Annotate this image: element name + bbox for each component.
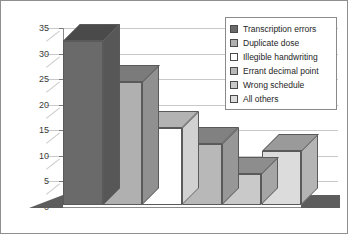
bar-side-face [103,24,120,205]
bar-side-face [142,65,159,205]
legend-swatch-icon [230,81,238,89]
legend-item-label: Transcription errors [243,25,316,34]
legend-item-label: Illegible handwriting [243,53,318,62]
y-axis-tick-label: 30 [19,50,49,59]
legend-item-label: Wrong schedule [243,81,304,90]
legend-item[interactable]: Errant decimal point [230,64,332,78]
y-axis-tick-label: 10 [19,152,49,161]
legend-item-label: All others [243,95,278,104]
legend-item[interactable]: Illegible handwriting [230,50,332,64]
chart-frame: 05101520253035 Transcription errorsDupli… [0,0,348,234]
bar-column[interactable] [63,41,103,205]
legend-item[interactable]: All others [230,92,332,106]
bar-front-face [63,41,103,205]
floor-slab-left [29,195,63,208]
y-axis-tick-label: 35 [19,24,49,33]
y-axis-tick-label: 25 [19,75,49,84]
x-axis-line [63,207,338,208]
legend-item[interactable]: Duplicate dose [230,36,332,50]
chart-legend: Transcription errorsDuplicate doseIllegi… [225,17,337,110]
y-axis-tick-label: 20 [19,101,49,110]
y-axis-tick-label: 15 [19,126,49,135]
legend-swatch-icon [230,25,238,33]
legend-item[interactable]: Wrong schedule [230,78,332,92]
legend-swatch-icon [230,53,238,61]
legend-swatch-icon [230,67,238,75]
legend-swatch-icon [230,39,238,47]
legend-item[interactable]: Transcription errors [230,22,332,36]
legend-swatch-icon [230,95,238,103]
legend-item-label: Duplicate dose [243,39,299,48]
y-axis-tick-label: 5 [19,177,49,186]
legend-item-label: Errant decimal point [243,67,319,76]
